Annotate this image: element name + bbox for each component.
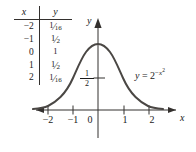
y-tick-label-one-half: 1 2: [80, 70, 94, 88]
x-tick-label-2: 2: [144, 114, 160, 125]
curve-equation-label: y = 2−x2: [135, 67, 165, 81]
fraction-denominator: 2: [80, 79, 94, 87]
x-axis-arrow-right: [168, 107, 176, 113]
x-tick-label-minus2: −2: [40, 114, 56, 125]
equation-exponent: −x2: [155, 69, 165, 77]
x-tick-label-1: 1: [117, 114, 133, 125]
exponent-power: 2: [162, 67, 165, 73]
x-tick-label-minus1: −1: [65, 114, 81, 125]
fraction-numerator: 1: [80, 70, 94, 79]
y-axis-label: y: [87, 15, 91, 26]
x-tick-label-zero: 0: [82, 114, 98, 125]
gaussian-curve-plot: [0, 0, 196, 152]
x-axis-label: x: [180, 112, 184, 123]
equation-lhs: y: [135, 70, 139, 81]
math-figure: x y −2 1⁄16 −1 1⁄2 0 1 1: [0, 0, 196, 152]
equation-equals: =: [142, 70, 148, 81]
y-axis-arrow-up: [94, 18, 101, 28]
